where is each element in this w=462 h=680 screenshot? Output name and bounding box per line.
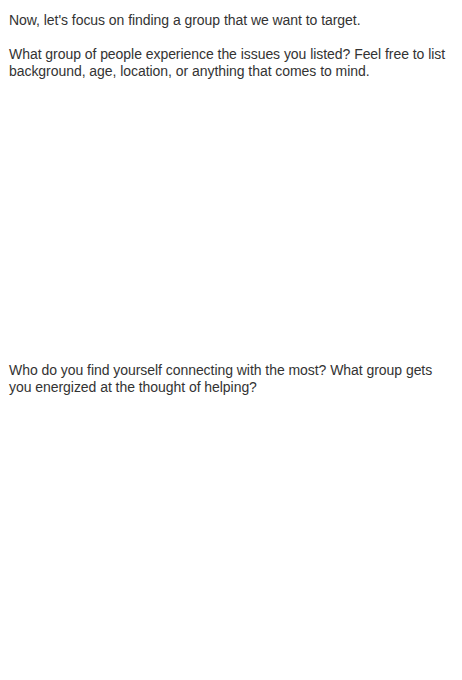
question-1-line-2: background, age, location, or anything t… <box>9 63 370 79</box>
intro-text: Now, let's focus on finding a group that… <box>9 12 449 29</box>
question-2-answer-field[interactable] <box>9 404 453 668</box>
question-1-prompt: What group of people experience the issu… <box>9 46 449 80</box>
question-2-line-1: Who do you find yourself connecting with… <box>9 362 432 378</box>
question-1-line-1: What group of people experience the issu… <box>9 46 445 62</box>
question-1-answer-field[interactable] <box>9 90 453 344</box>
question-2-line-2: you energized at the thought of helping? <box>9 379 257 395</box>
intro-text-line: Now, let's focus on finding a group that… <box>9 12 361 28</box>
question-2-prompt: Who do you find yourself connecting with… <box>9 362 449 396</box>
